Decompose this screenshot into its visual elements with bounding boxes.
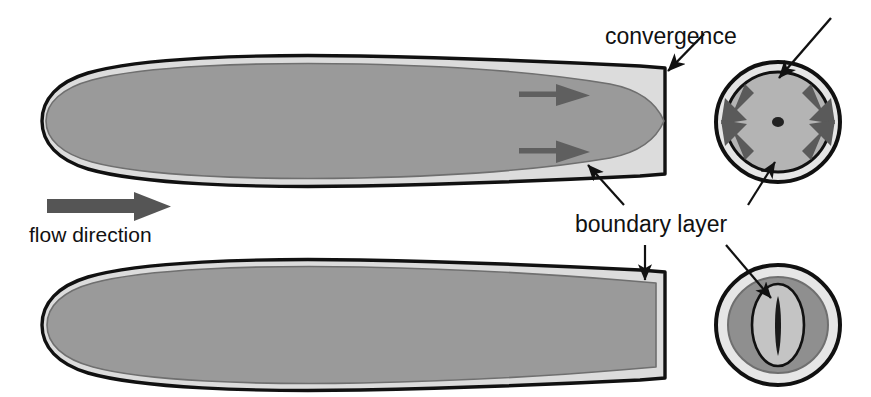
streamlined-body-profile-top <box>42 56 665 187</box>
label-convergence: convergence <box>605 23 737 49</box>
streamlined-body-profile-bottom <box>42 260 665 391</box>
label-flow-direction: flow direction <box>29 223 152 246</box>
diagram-canvas: convergence boundary layer flow directio… <box>0 0 871 397</box>
bottom-body-core <box>47 267 656 384</box>
flow-boundary-layer-diagram: convergence boundary layer flow directio… <box>0 0 871 397</box>
label-boundary-layer: boundary layer <box>575 211 727 237</box>
cross-section-top <box>716 62 840 182</box>
top-section-center-dot <box>772 117 784 127</box>
cross-section-bottom <box>716 265 840 385</box>
top-body-core <box>46 64 664 179</box>
